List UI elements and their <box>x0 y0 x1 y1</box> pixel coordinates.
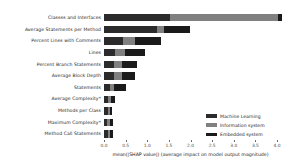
chart-legend: Machine LearningInformation systemEmbedd… <box>206 112 265 140</box>
y-axis-label: Lines <box>89 47 101 59</box>
y-axis-label: Maximum Complexity* <box>48 117 101 129</box>
stacked-bar <box>104 119 113 126</box>
y-axis-label: Classes and Interfaces <box>48 12 101 24</box>
bar-segment-machine-learning <box>104 61 114 68</box>
x-axis-tick <box>169 140 170 142</box>
legend-swatch-icon <box>206 123 217 126</box>
stacked-bar <box>104 96 115 103</box>
stacked-bar <box>104 14 282 21</box>
bar-segment-machine-learning <box>104 72 114 79</box>
bar-segment-embedded-system <box>110 130 113 137</box>
x-axis-tick <box>126 140 127 142</box>
bar-segment-information-system <box>114 72 122 79</box>
bar-segment-machine-learning <box>104 14 170 21</box>
bar-segment-embedded-system <box>125 49 146 56</box>
y-axis-label: Statements <box>74 82 101 94</box>
x-axis-tick <box>277 140 278 142</box>
shap-summary-bar-chart: Classes and InterfacesAverage Statements… <box>0 0 290 167</box>
stacked-bar <box>104 37 161 44</box>
stacked-bar <box>104 84 126 91</box>
x-axis-title: mean(|SHAP value|) (average impact on mo… <box>104 152 277 157</box>
y-axis-label: Average Complexity* <box>51 93 101 105</box>
bar-segment-embedded-system <box>110 107 112 114</box>
stacked-bar <box>104 130 113 137</box>
x-axis-tick-label: 4.0 <box>274 143 281 148</box>
y-axis-category-labels: Classes and InterfacesAverage Statements… <box>0 12 101 140</box>
y-axis-label: Percent Branch Statements <box>37 59 101 71</box>
x-axis-tick-label: 1.5 <box>165 143 172 148</box>
bar-segment-embedded-system <box>122 61 137 68</box>
x-axis-tick-label: 1.0 <box>144 143 151 148</box>
bar-segment-embedded-system <box>110 119 113 126</box>
legend-item: Embedded system <box>206 130 265 138</box>
bar-segment-information-system <box>115 49 125 56</box>
bar-segment-embedded-system <box>122 72 135 79</box>
y-axis-label: Percent Lines with Comments <box>31 35 101 47</box>
bar-segment-embedded-system <box>111 96 114 103</box>
x-axis-tick-label: 3.0 <box>230 143 237 148</box>
y-axis-label: Methods per Class <box>58 105 101 117</box>
bar-segment-embedded-system <box>278 14 282 21</box>
legend-item: Information system <box>206 121 265 129</box>
y-axis-label: Average Block Depth <box>52 70 101 82</box>
x-axis-tick <box>191 140 192 142</box>
bar-segment-machine-learning <box>104 37 123 44</box>
bar-segment-embedded-system <box>114 84 127 91</box>
bar-segment-information-system <box>157 26 164 33</box>
bar-segment-information-system <box>114 61 122 68</box>
x-axis-tick <box>212 140 213 142</box>
bar-segment-information-system <box>123 37 135 44</box>
bar-segment-information-system <box>170 14 278 21</box>
legend-label: Information system <box>220 123 265 128</box>
bar-segment-machine-learning <box>104 26 157 33</box>
x-axis-tick <box>147 140 148 142</box>
bar-segment-embedded-system <box>164 26 190 33</box>
y-axis-label: Average Statements per Method <box>25 24 101 36</box>
bar-segment-machine-learning <box>104 49 115 56</box>
stacked-bar <box>104 72 135 79</box>
x-axis-tick-label: 0.0 <box>101 143 108 148</box>
y-axis-label: Method Call Statements <box>45 128 101 140</box>
x-axis-tick-label: 2.0 <box>187 143 194 148</box>
x-axis: 0.00.51.01.52.02.53.03.54.0 <box>104 140 277 141</box>
legend-swatch-icon <box>206 133 217 136</box>
stacked-bar <box>104 107 112 114</box>
x-axis-tick-label: 0.5 <box>122 143 129 148</box>
legend-item: Machine Learning <box>206 112 265 120</box>
x-axis-tick <box>234 140 235 142</box>
stacked-bar <box>104 26 190 33</box>
legend-label: Machine Learning <box>220 114 261 119</box>
x-axis-tick-label: 2.5 <box>209 143 216 148</box>
stacked-bar <box>104 61 137 68</box>
x-axis-tick <box>104 140 105 142</box>
bar-segment-embedded-system <box>135 37 161 44</box>
stacked-bar <box>104 49 145 56</box>
x-axis-tick <box>255 140 256 142</box>
legend-swatch-icon <box>206 114 217 117</box>
legend-label: Embedded system <box>220 132 263 137</box>
x-axis-tick-label: 3.5 <box>252 143 259 148</box>
